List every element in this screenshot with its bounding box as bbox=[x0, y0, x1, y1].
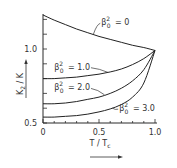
x-tick-label: 0.5 bbox=[93, 128, 106, 137]
annotation-sub: 0 bbox=[60, 67, 64, 74]
annotation-sub: 0 bbox=[107, 22, 111, 29]
annotation-value: = 2.0 bbox=[65, 83, 90, 92]
x-tick-label: 0 bbox=[40, 128, 45, 137]
svg-text:T / Tc: T / Tc bbox=[89, 139, 111, 149]
series-annotation-0: β20 = 0 bbox=[93, 15, 129, 34]
annotation-sup: 2 bbox=[124, 101, 128, 108]
svg-text:β20 = 1.0: β20 = 1.0 bbox=[54, 60, 90, 74]
annotation-leader bbox=[91, 88, 105, 94]
annotation-sub: 0 bbox=[125, 108, 129, 115]
annotation-leader bbox=[112, 108, 118, 109]
y-tick-label: 0.5 bbox=[24, 119, 37, 128]
chart: 00.51.0 0.51.0 β20 = 0β20 = 1.0β20 = 2.0… bbox=[0, 0, 177, 168]
x-label-main: T / T bbox=[89, 139, 108, 148]
annotation-sub: 0 bbox=[60, 87, 64, 94]
annotation-sup: 2 bbox=[106, 15, 110, 22]
y-tick-label: 1.0 bbox=[24, 45, 37, 54]
x-tick-label: 1.0 bbox=[149, 128, 162, 137]
x-ticks bbox=[43, 119, 155, 123]
annotation-leader bbox=[91, 68, 108, 73]
x-label-sub: c bbox=[107, 142, 110, 149]
svg-text:β20 = 3.0: β20 = 3.0 bbox=[119, 101, 155, 115]
x-axis-label: T / Tc bbox=[89, 139, 111, 149]
x-axis-arrow-icon bbox=[90, 155, 123, 158]
series-line-2 bbox=[43, 50, 155, 103]
y-ticks bbox=[43, 19, 47, 123]
series-line-0 bbox=[43, 15, 155, 51]
series-annotation-2: β20 = 2.0 bbox=[54, 80, 104, 94]
annotation-value: = 1.0 bbox=[65, 63, 90, 72]
annotations: β20 = 0β20 = 1.0β20 = 2.0β20 = 3.0 bbox=[54, 15, 155, 115]
annotation-leader bbox=[93, 23, 100, 34]
svg-text:β20 = 0: β20 = 0 bbox=[101, 15, 129, 29]
svg-text:K2 / K: K2 / K bbox=[16, 72, 26, 95]
annotation-value: = 3.0 bbox=[130, 104, 155, 113]
annotation-sup: 2 bbox=[59, 80, 63, 87]
y-axis-label: K2 / K bbox=[16, 72, 26, 95]
x-tick-labels: 00.51.0 bbox=[40, 128, 161, 137]
annotation-sup: 2 bbox=[59, 60, 63, 67]
series-annotation-3: β20 = 3.0 bbox=[112, 101, 155, 115]
annotation-value: = 0 bbox=[113, 18, 130, 27]
svg-text:β20 = 2.0: β20 = 2.0 bbox=[54, 80, 90, 94]
y-label-tail: / K bbox=[16, 72, 25, 86]
series-annotation-1: β20 = 1.0 bbox=[54, 60, 108, 74]
